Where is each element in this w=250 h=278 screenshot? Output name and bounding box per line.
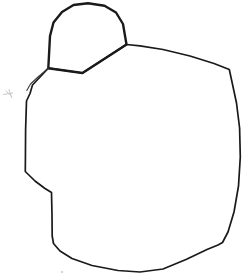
bottom-pencil-dot [61, 271, 63, 273]
drawing-canvas: Hand-drawn closed outline with upper-lef… [0, 0, 250, 278]
outline-drawing-svg: Hand-drawn closed outline with upper-lef… [0, 0, 250, 278]
